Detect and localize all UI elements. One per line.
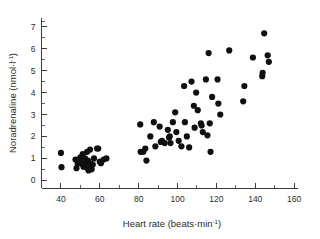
x-axis-ticks — [61, 183, 294, 188]
data-point — [186, 144, 192, 150]
data-point — [195, 107, 201, 113]
data-point — [217, 111, 223, 117]
y-tick-label: 6 — [31, 44, 36, 54]
data-point — [203, 76, 209, 82]
y-axis-tick-labels: 01234567 — [31, 22, 36, 186]
data-point — [176, 138, 182, 144]
data-point — [199, 122, 205, 128]
data-point — [170, 119, 176, 125]
y-tick-label: 5 — [31, 66, 36, 76]
data-point — [167, 140, 173, 146]
x-tick-label: 160 — [287, 194, 301, 204]
y-tick-label: 4 — [31, 88, 36, 98]
data-point — [95, 145, 101, 151]
data-point — [226, 47, 232, 53]
data-point — [178, 143, 184, 149]
y-tick-label: 1 — [31, 153, 36, 163]
data-point — [266, 59, 272, 65]
data-point — [181, 83, 187, 89]
data-point — [261, 30, 267, 36]
data-point — [214, 76, 220, 82]
data-point — [240, 98, 246, 104]
data-point — [87, 147, 93, 153]
y-axis-title: Noradrenaline (nmol·l-1) — [7, 53, 18, 153]
data-point — [204, 132, 210, 138]
x-tick-label: 140 — [248, 194, 262, 204]
data-point — [142, 145, 148, 151]
data-point — [206, 50, 212, 56]
y-tick-label: 0 — [31, 175, 36, 185]
data-point — [207, 149, 213, 155]
data-points-layer — [58, 30, 272, 173]
data-point — [260, 70, 266, 76]
data-point — [173, 129, 179, 135]
data-point — [90, 161, 96, 167]
data-point — [207, 120, 213, 126]
y-axis-ticks — [42, 21, 47, 180]
data-point — [182, 119, 188, 125]
plot-canvas: 406080100120140160 01234567 Heart rate (… — [0, 0, 320, 239]
x-tick-label: 100 — [170, 194, 184, 204]
data-point — [151, 119, 157, 125]
data-point — [91, 155, 97, 161]
y-tick-label: 2 — [31, 131, 36, 141]
data-point — [193, 89, 199, 95]
data-point — [103, 155, 109, 161]
x-tick-label: 40 — [56, 194, 66, 204]
data-point — [167, 133, 173, 139]
data-point — [162, 140, 168, 146]
data-point — [184, 133, 190, 139]
data-point — [188, 79, 194, 85]
x-axis-title: Heart rate (beats·min-1) — [123, 218, 221, 229]
y-tick-label: 7 — [31, 22, 36, 32]
data-point — [241, 83, 247, 89]
data-point — [157, 123, 163, 129]
data-point — [192, 125, 198, 131]
data-point — [165, 127, 171, 133]
data-point — [58, 164, 64, 170]
data-point — [172, 109, 178, 115]
x-axis-tick-labels: 406080100120140160 — [56, 194, 301, 204]
data-point — [209, 94, 215, 100]
y-tick-label: 3 — [31, 110, 36, 120]
data-point — [152, 143, 158, 149]
data-point — [137, 121, 143, 127]
x-tick-label: 60 — [95, 194, 105, 204]
data-point — [265, 52, 271, 58]
x-tick-label: 80 — [134, 194, 144, 204]
x-tick-label: 120 — [209, 194, 223, 204]
data-point — [147, 133, 153, 139]
data-point — [58, 150, 64, 156]
scatter-plot-figure: 406080100120140160 01234567 Heart rate (… — [0, 0, 320, 239]
data-point — [215, 100, 221, 106]
data-point — [143, 157, 149, 163]
data-point — [250, 54, 256, 60]
